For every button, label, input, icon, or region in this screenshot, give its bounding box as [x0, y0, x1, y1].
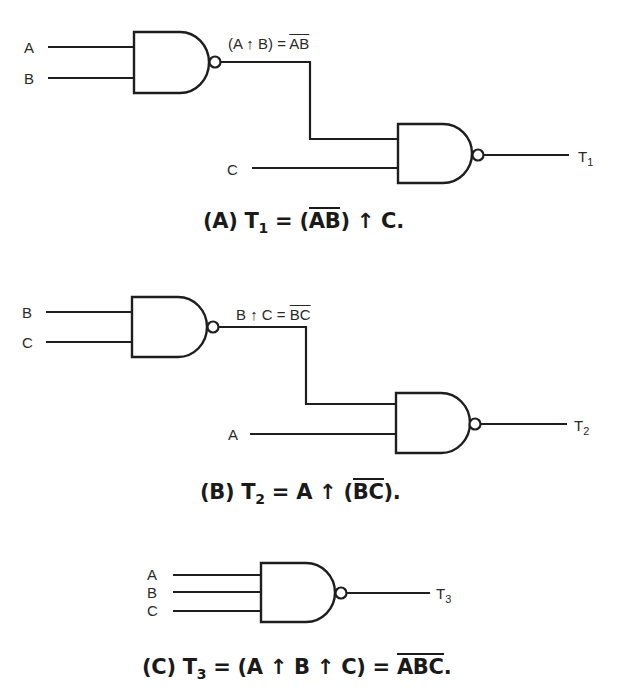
input-label-a: A	[147, 567, 157, 582]
circuit-a-gate-2	[252, 124, 569, 183]
caption-paren: (	[343, 480, 352, 504]
caption-tag: (A)	[203, 209, 238, 233]
expr-mid: B) =	[254, 35, 289, 52]
expr-overline: BC	[290, 306, 311, 323]
circuit-b-gate-2	[250, 393, 567, 453]
caption-rhs: C.	[381, 209, 404, 233]
caption-paren: ).	[384, 480, 401, 504]
output-label-t2: T2	[574, 418, 589, 437]
expr-overline: AB	[289, 35, 309, 52]
output-main: T	[574, 417, 583, 434]
caption-c: (C) T3 = (A ↑ B ↑ C) = ABC.	[142, 653, 451, 681]
nand-inversion-bubble	[336, 588, 347, 599]
caption-operand: A	[296, 480, 312, 504]
caption-equals: =	[373, 655, 390, 679]
caption-paren: (	[299, 209, 308, 233]
input-label-c: C	[227, 162, 238, 177]
nand-circuit-diagram	[0, 0, 622, 697]
input-label-b: B	[147, 585, 157, 600]
circuit-c-gate	[173, 563, 430, 622]
caption-a: (A) T1 = (AB) ↑ C.	[203, 207, 404, 235]
input-label-c: C	[147, 603, 158, 618]
wire-b-intermediate	[219, 327, 397, 404]
caption-equals: =	[213, 655, 230, 679]
output-main: T	[436, 585, 445, 602]
expr-prefix: (A	[228, 35, 246, 52]
expr-prefix: B	[236, 306, 250, 323]
caption-overline-term: ABC	[397, 653, 444, 678]
input-label-a: A	[228, 427, 238, 442]
caption-nand-arrow: ↑	[357, 209, 374, 233]
nand-inversion-bubble	[470, 419, 481, 430]
input-label-c: C	[22, 335, 33, 350]
wire-a-intermediate	[221, 62, 399, 139]
caption-lhs: T	[241, 480, 255, 504]
caption-overline-term: BC	[353, 478, 384, 503]
output-sub: 3	[445, 593, 451, 605]
caption-lhs: T	[245, 209, 259, 233]
caption-overline-term: AB	[309, 207, 341, 232]
intermediate-expression-a: (A ↑ B) = AB	[228, 36, 309, 51]
output-main: T	[578, 148, 587, 165]
input-label-a: A	[24, 40, 34, 55]
output-label-t1: T1	[578, 149, 593, 168]
output-label-t3: T3	[436, 586, 451, 605]
input-label-b: B	[24, 71, 34, 86]
expr-mid: C =	[258, 306, 290, 323]
caption-lhs-sub: 1	[259, 220, 268, 236]
nand-inversion-bubble	[210, 57, 221, 68]
caption-nand-arrow: ↑	[319, 480, 336, 504]
nand-gate-body	[396, 393, 470, 453]
caption-tag: (C)	[142, 655, 176, 679]
nand-gate-body	[398, 124, 472, 183]
circuit-a-gate-1	[48, 32, 398, 139]
caption-b: (B) T2 = A ↑ (BC).	[200, 478, 401, 506]
output-sub: 2	[583, 425, 589, 437]
circuit-b-gate-1	[46, 297, 396, 404]
output-sub: 1	[587, 156, 593, 168]
caption-period: .	[444, 655, 452, 679]
nand-arrow-symbol: ↑	[250, 306, 258, 323]
nand-gate-body	[132, 297, 207, 357]
caption-lhs-sub: 3	[197, 666, 206, 682]
caption-equals: =	[275, 209, 292, 233]
intermediate-expression-b: B ↑ C = BC	[236, 307, 311, 322]
nand-inversion-bubble	[208, 322, 219, 333]
nand-inversion-bubble	[473, 150, 484, 161]
nand-gate-body	[261, 563, 335, 622]
nand-gate-body	[134, 32, 209, 93]
caption-equals: =	[272, 480, 289, 504]
caption-paren: )	[340, 209, 349, 233]
nand-arrow-symbol: ↑	[246, 35, 254, 52]
caption-lhs: T	[183, 655, 197, 679]
caption-tag: (B)	[200, 480, 234, 504]
input-label-b: B	[22, 305, 32, 320]
caption-expression: (A ↑ B ↑ C)	[238, 655, 366, 679]
caption-lhs-sub: 2	[255, 491, 264, 507]
